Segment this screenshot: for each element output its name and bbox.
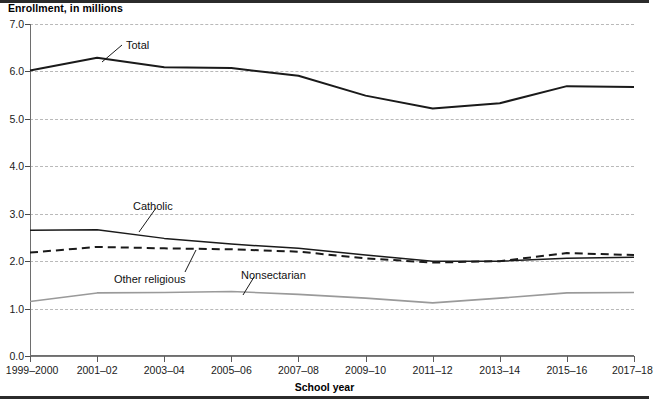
x-axis-label-7: 2013–14 [479, 364, 520, 376]
x-tick-9 [634, 356, 635, 362]
y-axis-label-7-0: 7.0 [9, 18, 24, 30]
y-axis-label-3-0: 3.0 [9, 208, 24, 220]
x-tick-2 [164, 356, 165, 362]
y-axis-label-2-0: 2.0 [9, 255, 24, 267]
x-tick-3 [231, 356, 232, 362]
series-line-other-religious [30, 247, 634, 263]
y-axis-label-5-0: 5.0 [9, 113, 24, 125]
gridline-0-0 [30, 356, 634, 357]
x-tick-8 [567, 356, 568, 362]
x-axis-label-5: 2009–10 [345, 364, 386, 376]
y-axis-label-6-0: 6.0 [9, 65, 24, 77]
callout-label-catholic: Catholic [133, 200, 173, 212]
callout-label-nonsectarian: Nonsectarian [241, 269, 306, 281]
x-axis-label-9: 2017–18 [612, 364, 653, 376]
x-tick-0 [30, 356, 31, 362]
x-tick-4 [298, 356, 299, 362]
y-axis-label-4-0: 4.0 [9, 160, 24, 172]
x-axis-label-4: 2007–08 [278, 364, 319, 376]
series-lines [30, 24, 634, 356]
x-axis-label-2: 2003–04 [144, 364, 185, 376]
x-tick-7 [500, 356, 501, 362]
x-axis-label-1: 2001–02 [77, 364, 118, 376]
x-tick-6 [433, 356, 434, 362]
y-axis-title: Enrollment, in millions [8, 2, 123, 14]
x-axis-label-6: 2011–12 [413, 364, 453, 376]
x-axis-label-8: 2015–16 [546, 364, 587, 376]
series-line-nonsectarian [30, 292, 634, 303]
series-line-total [30, 58, 634, 109]
y-axis-label-0-0: 0.0 [9, 350, 24, 362]
callout-label-other-religious: Other religious [114, 273, 186, 285]
x-axis-title: School year [0, 381, 649, 393]
plot-area: 0.01.02.03.04.05.06.07.0 1999–20002001–0… [30, 24, 634, 356]
callout-label-total: Total [126, 39, 149, 51]
x-axis-label-3: 2005–06 [211, 364, 252, 376]
x-tick-1 [97, 356, 98, 362]
x-axis-label-0: 1999–2000 [6, 364, 59, 376]
y-axis-label-1-0: 1.0 [9, 303, 24, 315]
x-tick-5 [366, 356, 367, 362]
